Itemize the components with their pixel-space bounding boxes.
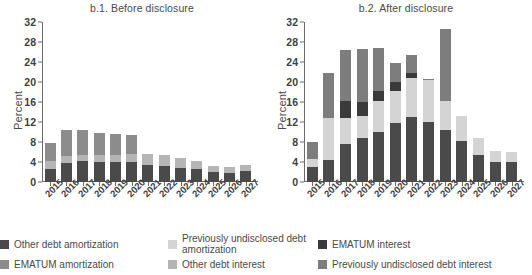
panel-title-b1: b.1. Before disclosure: [0, 2, 266, 14]
x-tick-labels-b2: 2015201620172018201920202021202220232024…: [304, 182, 520, 226]
x-tick-mark-b1-2017: [83, 182, 84, 186]
bar-b2-2017: [340, 50, 351, 182]
x-tick-mark-b2-2021: [412, 182, 413, 186]
bar-b1-2015: [45, 143, 56, 182]
bar-segment-previously-undisclosed-debt-amortization: [456, 116, 467, 142]
bar-segment-previously-undisclosed-debt-amortization: [473, 138, 484, 155]
y-tick-mark-b2-24: [300, 62, 304, 63]
x-tick-mark-b2-2023: [445, 182, 446, 186]
bar-segment-other-debt-interest: [142, 154, 153, 165]
panel-title-b2: b.2. After disclosure: [266, 2, 532, 14]
x-tick-mark-b2-2026: [495, 182, 496, 186]
x-tick-labels-b1: 2015201620172018201920202021202220232024…: [42, 182, 254, 226]
legend-swatch-ematum-amortization: [0, 260, 9, 269]
legend-label-other-debt-amortization: Other debt amortization: [14, 239, 119, 250]
y-tick-mark-b1-16: [38, 102, 42, 103]
bar-segment-previously-undisclosed-debt-amortization: [323, 118, 334, 160]
bar-segment-other-debt-amortization: [357, 138, 368, 183]
bar-segment-previously-undisclosed-debt-amortization: [307, 159, 318, 167]
y-tick-mark-b2-20: [300, 82, 304, 83]
bar-segment-previously-undisclosed-debt-amortization: [340, 118, 351, 144]
bar-b2-2019: [373, 48, 384, 183]
bar-segment-ematum-amortization: [77, 130, 88, 156]
y-tick-mark-b1-28: [38, 42, 42, 43]
x-tick-mark-b1-2022: [164, 182, 165, 186]
bar-b2-2016: [323, 73, 334, 183]
bar-b1-2018: [94, 133, 105, 183]
panel-after-disclosure: b.2. After disclosure Percent 2015201620…: [266, 0, 532, 232]
bar-segment-ematum-amortization: [61, 130, 72, 156]
bar-segment-other-debt-interest: [175, 158, 186, 168]
legend-item-other-debt-interest: Other debt interest: [168, 254, 318, 274]
bar-segment-previously-undisclosed-debt-amortization: [506, 152, 517, 163]
x-tick-mark-b2-2020: [395, 182, 396, 186]
stacked-bar-figure: b.1. Before disclosure Percent 201520162…: [0, 0, 532, 275]
x-tick-mark-b1-2018: [99, 182, 100, 186]
bar-b2-2021: [406, 55, 417, 183]
bar-b1-2023: [175, 158, 186, 182]
bar-segment-previously-undisclosed-debt-interest: [340, 50, 351, 101]
bar-group-b2: [304, 22, 520, 182]
x-tick-mark-b2-2025: [478, 182, 479, 186]
bar-b2-2026: [490, 151, 501, 182]
x-tick-mark-b2-2027: [512, 182, 513, 186]
bar-b2-2018: [357, 49, 368, 182]
x-tick-mark-b1-2024: [197, 182, 198, 186]
y-tick-mark-b1-4: [38, 162, 42, 163]
bar-segment-other-debt-amortization: [390, 123, 401, 182]
bar-segment-other-debt-amortization: [340, 144, 351, 183]
bar-segment-previously-undisclosed-debt-interest: [323, 73, 334, 119]
legend-swatch-other-debt-amortization: [0, 240, 9, 249]
bar-segment-other-debt-interest: [61, 156, 72, 164]
legend-label-ematum-interest: EMATUM interest: [332, 239, 410, 250]
legend-swatch-previously-undisclosed-debt-amortization: [168, 240, 177, 249]
bar-b1-2020: [126, 135, 137, 182]
bar-segment-other-debt-amortization: [373, 132, 384, 183]
x-tick-mark-b1-2026: [229, 182, 230, 186]
legend-swatch-other-debt-interest: [168, 260, 177, 269]
y-tick-mark-b2-28: [300, 42, 304, 43]
x-tick-mark-b2-2019: [379, 182, 380, 186]
bar-b2-2023: [440, 29, 451, 182]
y-tick-mark-b2-0: [300, 182, 304, 183]
bar-segment-previously-undisclosed-debt-amortization: [490, 151, 501, 162]
bar-b2-2024: [456, 116, 467, 183]
bar-segment-ematum-interest: [390, 82, 401, 91]
legend-item-previously-undisclosed-debt-amortization: Previously undisclosed debt amortization: [168, 234, 318, 254]
bar-b1-2022: [159, 155, 170, 183]
x-tick-mark-b1-2016: [66, 182, 67, 186]
bar-segment-other-debt-amortization: [423, 122, 434, 182]
bar-segment-other-debt-interest: [45, 161, 56, 169]
bar-segment-ematum-interest: [373, 91, 384, 101]
plot-area-b2: 2015201620172018201920202021202220232024…: [304, 22, 520, 182]
bar-segment-other-debt-interest: [159, 155, 170, 166]
bar-segment-previously-undisclosed-debt-interest: [373, 48, 384, 92]
y-tick-mark-b1-8: [38, 142, 42, 143]
y-tick-mark-b2-16: [300, 102, 304, 103]
y-tick-mark-b2-4: [300, 162, 304, 163]
x-tick-mark-b2-2022: [429, 182, 430, 186]
chart-legend: Other debt amortizationPreviously undisc…: [0, 234, 532, 275]
x-tick-mark-b1-2025: [213, 182, 214, 186]
bar-b2-2027: [506, 152, 517, 183]
bar-segment-other-debt-amortization: [456, 141, 467, 182]
legend-item-previously-undisclosed-debt-interest: Previously undisclosed debt interest: [318, 254, 532, 274]
bar-segment-previously-undisclosed-debt-interest: [357, 49, 368, 102]
x-tick-mark-b1-2020: [132, 182, 133, 186]
bar-segment-previously-undisclosed-debt-amortization: [406, 78, 417, 117]
bar-segment-ematum-interest: [357, 102, 368, 116]
bar-segment-other-debt-interest: [110, 155, 121, 162]
bar-b1-2016: [61, 130, 72, 182]
x-tick-mark-b1-2021: [148, 182, 149, 186]
legend-item-ematum-amortization: EMATUM amortization: [0, 254, 168, 274]
legend-swatch-ematum-interest: [318, 240, 327, 249]
x-tick-mark-b2-2017: [346, 182, 347, 186]
bar-b2-2025: [473, 138, 484, 182]
bar-segment-ematum-amortization: [45, 143, 56, 161]
bar-segment-other-debt-amortization: [440, 130, 451, 182]
plot-area-b1: 2015201620172018201920202021202220232024…: [42, 22, 254, 182]
panel-before-disclosure: b.1. Before disclosure Percent 201520162…: [0, 0, 266, 232]
bar-b1-2019: [110, 134, 121, 182]
y-tick-mark-b1-20: [38, 82, 42, 83]
y-tick-mark-b2-8: [300, 142, 304, 143]
